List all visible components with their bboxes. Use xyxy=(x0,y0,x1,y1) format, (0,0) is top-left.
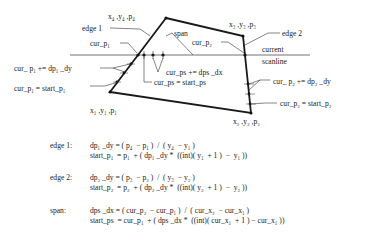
cur-p2-start-label: cur_p₂ = start_p₂ xyxy=(280,99,332,108)
cur-ps-inc-label: cur_ps += dps _dx xyxy=(166,68,223,77)
span-label: span xyxy=(174,29,188,38)
scanline-label: scanline xyxy=(262,57,288,66)
vertex-dot xyxy=(109,91,112,94)
cur-p1-start-label: cur_p₁ = start_p₁ xyxy=(14,84,66,93)
edge-2-eq-label: edge 2: xyxy=(50,173,72,182)
edge-1-eq-label: edge 1: xyxy=(50,141,72,150)
vertex-4-label: x₄ ,y₄ ,p₄ xyxy=(108,12,135,21)
cur-p2-label: cur_p₂ xyxy=(192,38,212,47)
vertex-2-label: x₂ ,y₂ ,p₂ xyxy=(233,117,260,126)
cur-p2-inc-label: cur_ p₂ += dp₂ _dy xyxy=(273,77,331,86)
scanline-point xyxy=(243,53,246,56)
cur-p1-inc-label: cur_ p₁ += dp₁ _dy xyxy=(14,64,72,73)
vertex-dot xyxy=(165,17,168,20)
vertex-1-label: x₁ ,y₁ ,p₁ xyxy=(90,106,117,115)
cur-p1-label: cur_p₁ xyxy=(90,39,110,48)
vertex-dot xyxy=(250,112,253,115)
cur-ps-start-label: cur_ps = start_ps xyxy=(154,78,206,87)
edge-2-eq-line-2: start_p₂ = p₂ + ( dp₂ _dy * ((int)( y₂ +… xyxy=(90,183,247,192)
span-eq-line-1: dps _dx = ( cur_p₂ − cur_p₁ ) / ( cur_x₂… xyxy=(90,206,249,215)
edge-1-label: edge 1 xyxy=(82,24,102,33)
span-eq-label: span: xyxy=(50,206,66,215)
vertex-3-label: x₃ ,y₃ ,p₃ xyxy=(229,20,256,29)
current-label: current xyxy=(262,45,284,54)
vertex-dot xyxy=(242,35,245,38)
edge-1-eq-line-1: dp₁ _dy = ( p₄ − p₁ ) / ( y₄ − y₁ ) xyxy=(90,141,195,150)
scanline-point xyxy=(136,53,139,56)
edge-2-eq-line-1: dp₂ _dy = ( p₃ − p₂ ) / ( y₃ − y₂ ) xyxy=(90,173,195,182)
edge-1-eq-line-2: start_p₁ = p₁ + ( dp₁ _dy * ((int)( y₁ +… xyxy=(90,151,247,160)
span-eq-line-2: start_ps = cur_p₁ + ( dps _dx * ((int)( … xyxy=(90,216,284,225)
edge-2-label: edge 2 xyxy=(282,29,302,38)
